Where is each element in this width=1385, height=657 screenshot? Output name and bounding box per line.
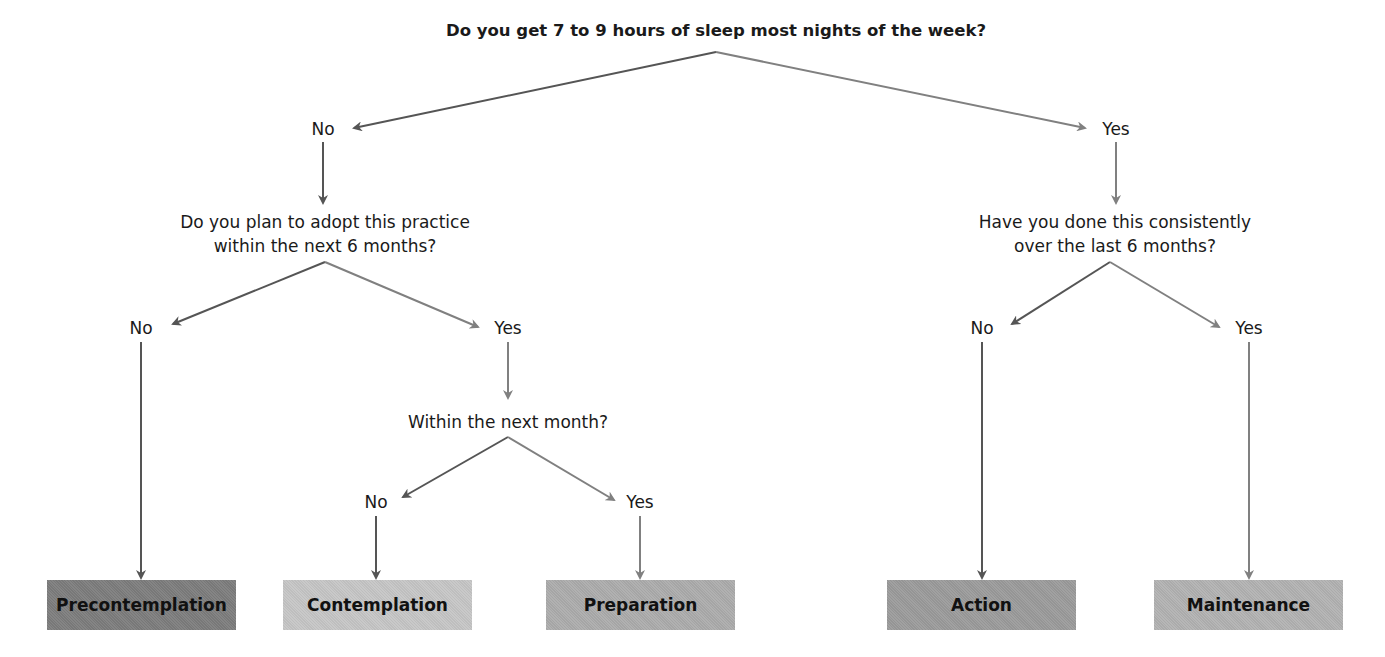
sub-yes-label: Yes [616, 491, 664, 513]
stage-contemplation: Contemplation [283, 580, 472, 630]
sub-question: Within the next month? [358, 411, 658, 433]
stage-action: Action [887, 580, 1076, 630]
sub-no-label: No [353, 491, 399, 513]
root-no-label: No [300, 118, 346, 140]
stage-preparation: Preparation [546, 580, 735, 630]
root-yes-label: Yes [1092, 118, 1140, 140]
right-question-line1: Have you done this consistently [920, 211, 1310, 233]
left-question-line1: Do you plan to adopt this practice [125, 211, 525, 233]
flowchart-edges [0, 0, 1385, 657]
arrow-root-no [354, 52, 716, 128]
left-no-label: No [118, 317, 164, 339]
stage-maintenance: Maintenance [1154, 580, 1343, 630]
right-yes-label: Yes [1225, 317, 1273, 339]
right-no-label: No [959, 317, 1005, 339]
arrow-root-yes [716, 52, 1085, 128]
left-question-line2: within the next 6 months? [125, 235, 525, 257]
right-question-line2: over the last 6 months? [920, 235, 1310, 257]
stage-precontemplation: Precontemplation [47, 580, 236, 630]
root-question: Do you get 7 to 9 hours of sleep most ni… [0, 20, 1385, 42]
left-yes-label: Yes [484, 317, 532, 339]
